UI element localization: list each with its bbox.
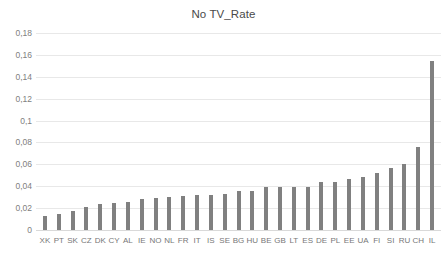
- y-axis-tick-label: 0,1: [0, 116, 32, 125]
- x-axis-tick-label: IE: [135, 233, 149, 249]
- bar-slot: [79, 33, 93, 230]
- x-axis-tick-label: AL: [121, 233, 135, 249]
- x-axis-tick-label: SE: [218, 233, 232, 249]
- bar-slot: [411, 33, 425, 230]
- bar[interactable]: [278, 187, 282, 230]
- bar[interactable]: [223, 194, 227, 230]
- bar-slot: [121, 33, 135, 230]
- bar[interactable]: [375, 173, 379, 230]
- x-axis-tick-label: RU: [398, 233, 412, 249]
- bar[interactable]: [430, 61, 434, 230]
- y-axis-tick-label: 0,16: [0, 51, 32, 60]
- x-axis-tick-label: ES: [301, 233, 315, 249]
- bar-chart: No TV_Rate 0,180,160,140,120,10,080,060,…: [0, 0, 447, 265]
- y-axis-tick-label: 0: [0, 226, 32, 235]
- bar-slot: [259, 33, 273, 230]
- bar-slot: [384, 33, 398, 230]
- bar[interactable]: [43, 216, 47, 230]
- bar[interactable]: [237, 191, 241, 230]
- x-axis-tick-label: FR: [176, 233, 190, 249]
- x-axis-tick-label: BE: [259, 233, 273, 249]
- x-axis-tick-label: LT: [287, 233, 301, 249]
- bar-slot: [107, 33, 121, 230]
- bar[interactable]: [292, 187, 296, 230]
- x-axis-tick-label: SK: [66, 233, 80, 249]
- x-axis-tick-label: CZ: [79, 233, 93, 249]
- bar-slot: [315, 33, 329, 230]
- bar[interactable]: [264, 187, 268, 230]
- bar[interactable]: [71, 211, 75, 230]
- bar[interactable]: [402, 164, 406, 230]
- x-axis-tick-label: IS: [204, 233, 218, 249]
- bar[interactable]: [306, 187, 310, 230]
- x-axis-tick-label: CH: [411, 233, 425, 249]
- gridline: [36, 230, 441, 231]
- y-axis-tick-label: 0,06: [0, 160, 32, 169]
- bar[interactable]: [195, 195, 199, 230]
- x-axis-tick-label: BG: [232, 233, 246, 249]
- bar[interactable]: [112, 203, 116, 230]
- bar-slot: [218, 33, 232, 230]
- bar-slot: [287, 33, 301, 230]
- chart-title: No TV_Rate: [0, 8, 447, 20]
- bar[interactable]: [126, 202, 130, 230]
- bar[interactable]: [389, 168, 393, 230]
- x-axis-tick-label: FI: [370, 233, 384, 249]
- x-axis-tick-label: DE: [315, 233, 329, 249]
- bar-slot: [52, 33, 66, 230]
- x-axis-tick-label: PL: [328, 233, 342, 249]
- x-axis-tick-label: PT: [52, 233, 66, 249]
- x-axis-tick-label: XK: [38, 233, 52, 249]
- bar[interactable]: [361, 177, 365, 230]
- bar[interactable]: [319, 182, 323, 230]
- bar-slot: [162, 33, 176, 230]
- x-axis-tick-label: IL: [425, 233, 439, 249]
- x-axis-tick-label: HU: [245, 233, 259, 249]
- x-axis-tick-label: EE: [342, 233, 356, 249]
- bar-slot: [273, 33, 287, 230]
- y-axis-tick-label: 0,08: [0, 138, 32, 147]
- bar-slot: [301, 33, 315, 230]
- y-axis-tick-label: 0,12: [0, 94, 32, 103]
- y-axis: 0,180,160,140,120,10,080,060,040,020: [0, 33, 32, 230]
- bar-slot: [356, 33, 370, 230]
- bar[interactable]: [250, 191, 254, 230]
- x-axis-tick-label: DK: [93, 233, 107, 249]
- bar-slot: [245, 33, 259, 230]
- y-axis-tick-label: 0,02: [0, 204, 32, 213]
- bar-slot: [93, 33, 107, 230]
- bar-slot: [66, 33, 80, 230]
- x-axis-tick-label: NL: [162, 233, 176, 249]
- plot-area: [36, 33, 441, 230]
- bar-slot: [232, 33, 246, 230]
- bar-slot: [370, 33, 384, 230]
- bar-slot: [398, 33, 412, 230]
- bar-slot: [135, 33, 149, 230]
- x-axis-tick-label: UA: [356, 233, 370, 249]
- bar[interactable]: [209, 195, 213, 230]
- bar-slot: [176, 33, 190, 230]
- bar[interactable]: [84, 207, 88, 230]
- bar-slot: [38, 33, 52, 230]
- x-axis-tick-label: NO: [149, 233, 163, 249]
- x-axis-tick-label: GB: [273, 233, 287, 249]
- bar[interactable]: [154, 198, 158, 230]
- bar[interactable]: [140, 199, 144, 230]
- bar-slot: [425, 33, 439, 230]
- bar-series: [36, 33, 441, 230]
- bar[interactable]: [98, 204, 102, 230]
- bar-slot: [204, 33, 218, 230]
- y-axis-tick-label: 0,18: [0, 29, 32, 38]
- y-axis-tick-label: 0,14: [0, 73, 32, 82]
- bar-slot: [342, 33, 356, 230]
- bar[interactable]: [167, 197, 171, 230]
- x-axis-tick-label: CY: [107, 233, 121, 249]
- bar[interactable]: [181, 196, 185, 230]
- bar[interactable]: [416, 147, 420, 230]
- bar[interactable]: [333, 182, 337, 230]
- x-axis: XKPTSKCZDKCYALIENONLFRITISSEBGHUBEGBLTES…: [36, 233, 441, 249]
- bar-slot: [190, 33, 204, 230]
- bar-slot: [149, 33, 163, 230]
- bar[interactable]: [57, 214, 61, 230]
- bar[interactable]: [347, 179, 351, 230]
